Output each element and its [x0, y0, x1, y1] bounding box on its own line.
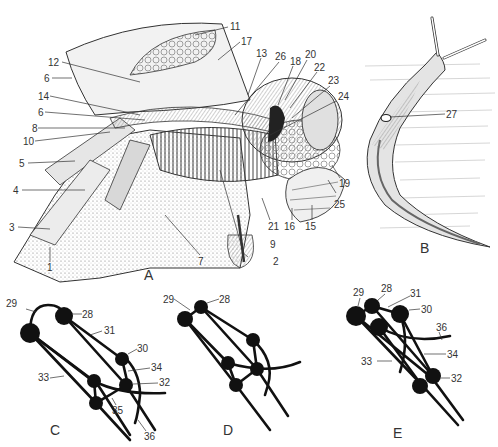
- ganglion-c-bottom: [89, 396, 103, 410]
- ganglion-d-bottom: [229, 378, 243, 392]
- label-16: 16: [284, 221, 296, 232]
- ganglion-28: [55, 307, 73, 325]
- label-34-c: 34: [151, 362, 163, 373]
- label-30-c: 30: [137, 343, 149, 354]
- ganglion-32: [119, 378, 133, 392]
- label-33-c: 33: [38, 372, 50, 383]
- label-25: 25: [334, 199, 346, 210]
- label-22: 22: [314, 62, 326, 73]
- label-28-e: 28: [381, 283, 393, 294]
- label-4: 4: [13, 185, 19, 196]
- label-24: 24: [338, 91, 350, 102]
- ganglion-30-e: [391, 305, 409, 323]
- label-3: 3: [9, 222, 15, 233]
- ganglion-c-left: [87, 374, 101, 388]
- label-6-lower: 6: [38, 107, 44, 118]
- ganglion-e-bottom: [412, 378, 428, 394]
- label-32-e: 32: [451, 373, 463, 384]
- label-10: 10: [23, 136, 35, 147]
- label-29-d: 29: [163, 294, 175, 305]
- label-27: 27: [446, 109, 458, 120]
- label-9: 9: [270, 239, 276, 250]
- panel-letter-a: A: [144, 267, 154, 283]
- label-32-c: 32: [159, 377, 171, 388]
- label-6-upper: 6: [44, 73, 50, 84]
- label-1: 1: [47, 262, 53, 273]
- label-20: 20: [305, 49, 317, 60]
- label-19: 19: [339, 178, 351, 189]
- label-29-e: 29: [353, 287, 365, 298]
- label-5: 5: [19, 158, 25, 169]
- label-2: 2: [273, 256, 279, 267]
- label-34-e: 34: [447, 349, 459, 360]
- panel-b-drawing: 27 B: [365, 18, 495, 256]
- label-26: 26: [275, 51, 287, 62]
- panel-letter-c: C: [50, 422, 60, 438]
- label-17: 17: [241, 36, 253, 47]
- panel-letter-b: B: [420, 240, 429, 256]
- panel-c-schematic: 29 28 31 30 34 32 33 35 36 C: [6, 298, 171, 442]
- ganglion-28-e: [364, 298, 380, 314]
- anatomy-figure: 11 17 12 6 14 6 8 10 5 4 3 1 7 9 2 13 26…: [0, 0, 498, 447]
- panel-letter-e: E: [393, 425, 402, 441]
- label-18: 18: [290, 56, 302, 67]
- label-30-e: 30: [421, 304, 433, 315]
- label-35-c: 35: [112, 405, 124, 416]
- ganglion-d-right: [246, 333, 260, 347]
- ganglion-d-center: [250, 362, 264, 376]
- label-36-c: 36: [144, 431, 156, 442]
- label-33-e: 33: [361, 356, 373, 367]
- label-13: 13: [256, 48, 268, 59]
- label-23: 23: [328, 75, 340, 86]
- label-11: 11: [230, 21, 241, 32]
- label-36-e: 36: [436, 322, 448, 333]
- panel-letter-d: D: [223, 422, 233, 438]
- label-28-d: 28: [219, 294, 231, 305]
- label-8: 8: [32, 123, 38, 134]
- ganglion-d-mid: [221, 356, 235, 370]
- label-12: 12: [48, 57, 60, 68]
- label-7: 7: [198, 256, 204, 267]
- label-15: 15: [305, 221, 317, 232]
- label-14: 14: [38, 91, 50, 102]
- label-28-c: 28: [82, 309, 94, 320]
- ganglion-e-mid: [370, 318, 388, 336]
- ganglion-28-d: [194, 300, 208, 314]
- panel-e-schematic: 29 28 31 30 36 34 33 32 E: [346, 283, 463, 441]
- ganglion-29-d: [177, 311, 193, 327]
- label-31-e: 31: [410, 288, 422, 299]
- label-31-c: 31: [104, 325, 116, 336]
- label-21: 21: [268, 221, 280, 232]
- label-29-c: 29: [6, 298, 18, 309]
- ganglion-29: [20, 323, 40, 343]
- panel-d-schematic: 29 28 D: [163, 294, 300, 438]
- ganglion-30: [115, 352, 129, 366]
- ganglion-29-e: [346, 306, 366, 326]
- ganglion-32-e: [425, 368, 441, 384]
